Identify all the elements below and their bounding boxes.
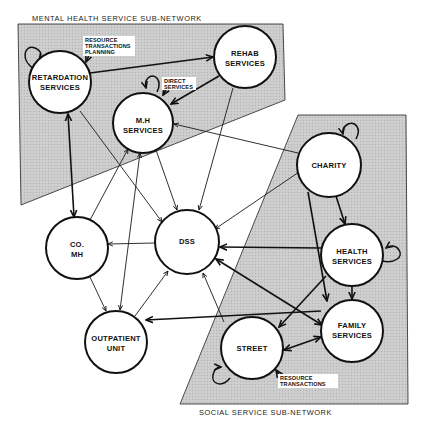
edge-dss-comh — [108, 243, 155, 244]
node-label: SERVICES — [332, 331, 372, 340]
annotation-resource-transactions: RESOURCE TRANSACTIONS — [278, 374, 338, 388]
node-label: CO. — [70, 240, 84, 249]
node-label: SERVICES — [40, 83, 80, 92]
node-label: DSS — [179, 237, 195, 246]
social-service-subnetwork-title: SOCIAL SERVICE SUB-NETWORK — [199, 408, 332, 417]
node-outpatient-unit[interactable]: OUTPATIENT UNIT — [85, 311, 147, 373]
edge-charity-mh — [174, 124, 298, 153]
node-health-services[interactable]: HEALTH SERVICES — [321, 224, 383, 286]
node-label: SERVICES — [332, 257, 372, 266]
node-rehab-services[interactable]: REHAB SERVICES — [214, 26, 276, 88]
node-retardation-services[interactable]: RETARDATION SERVICES — [29, 51, 91, 113]
edge-street-dss — [203, 273, 224, 322]
edge-outpatient-mh — [120, 153, 140, 310]
node-label: SERVICES — [123, 126, 163, 135]
annotation-line: PLANNING — [85, 49, 115, 55]
node-label: M.H — [136, 116, 151, 125]
node-label: OUTPATIENT — [91, 334, 141, 343]
annotation-line: SERVICES — [164, 84, 193, 90]
node-label: HEALTH — [336, 247, 367, 256]
edge-mh-dss — [156, 150, 177, 210]
annotation-resource-transactions-planning: RESOURCE TRANSACTIONS PLANNING — [83, 36, 135, 56]
node-label: FAMILY — [338, 321, 366, 330]
node-label: CHARITY — [311, 161, 346, 170]
edge-outpatient-dss — [135, 271, 168, 316]
node-family-services[interactable]: FAMILY SERVICES — [321, 300, 383, 362]
node-mh-services[interactable]: M.H SERVICES — [113, 93, 173, 153]
node-dss[interactable]: DSS — [155, 210, 219, 274]
node-label: RETARDATION — [32, 73, 88, 82]
annotation-direct-services: DIRECT SERVICES — [162, 77, 196, 90]
network-diagram: MENTAL HEALTH SERVICE SUB-NETWORK SOCIAL… — [0, 0, 423, 428]
node-charity[interactable]: CHARITY — [297, 133, 361, 197]
node-label: REHAB — [231, 49, 259, 58]
node-label: SERVICES — [225, 59, 265, 68]
node-label: MH — [71, 250, 83, 259]
node-street[interactable]: STREET — [221, 317, 283, 379]
edge-comh-outpatient — [90, 277, 106, 311]
edge-health-dss — [220, 247, 321, 248]
node-label: STREET — [236, 344, 267, 353]
node-co-mh[interactable]: CO. MH — [46, 217, 108, 279]
node-circle — [29, 51, 91, 113]
annotation-line: TRANSACTIONS — [280, 381, 326, 387]
mental-health-subnetwork-title: MENTAL HEALTH SERVICE SUB-NETWORK — [32, 14, 202, 23]
node-label: UNIT — [107, 344, 126, 353]
